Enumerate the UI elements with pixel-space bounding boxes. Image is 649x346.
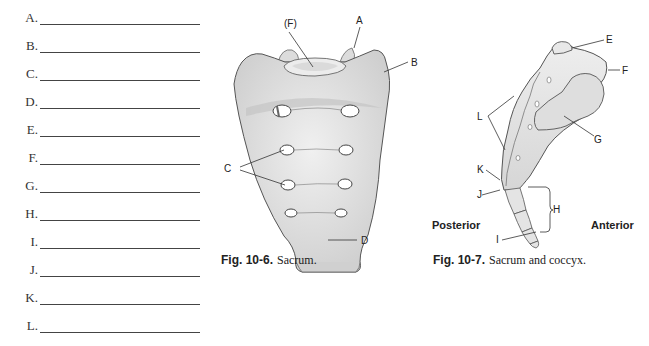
caption-text: Sacrum and coccyx.	[489, 253, 586, 267]
label-i: I	[496, 234, 499, 245]
figure-caption-10-7: Fig. 10-7.Sacrum and coccyx.	[433, 253, 586, 268]
label-d: D	[361, 235, 368, 246]
direction-posterior: Posterior	[432, 219, 480, 231]
sacral-foramen	[281, 180, 295, 190]
caption-number: Fig. 10-7.	[433, 253, 485, 267]
sacral-foramen	[285, 209, 297, 217]
sacral-foramen	[341, 105, 359, 117]
sacrum-illustration: (F) A B C D	[224, 15, 418, 272]
label-c: C	[224, 163, 231, 174]
label-k: K	[477, 164, 484, 175]
label-j: J	[477, 189, 482, 200]
caption-number: Fig. 10-6.	[221, 253, 273, 267]
sacral-foramen	[280, 145, 294, 155]
anatomy-figures: (F) A B C D E F G	[0, 0, 649, 346]
label-l: L	[477, 111, 483, 122]
label-h: H	[553, 204, 560, 215]
sacrum-coccyx-lateral-illustration: E F G L K J H I	[477, 34, 628, 248]
coccyx-segment	[505, 188, 526, 214]
label-f-paren: (F)	[284, 18, 297, 29]
sacral-foramen	[338, 179, 352, 189]
sacral-foramen	[335, 209, 347, 217]
label-g: G	[594, 134, 602, 145]
caption-text: Sacrum.	[277, 253, 317, 267]
direction-anterior: Anterior	[591, 219, 634, 231]
sacral-foramen	[273, 105, 291, 117]
label-e: E	[606, 34, 613, 45]
figure-caption-10-6: Fig. 10-6.Sacrum.	[221, 253, 317, 268]
label-a: A	[356, 15, 363, 26]
bracket-h	[528, 187, 553, 232]
label-f: F	[622, 65, 628, 76]
label-b: B	[411, 57, 418, 68]
sacral-foramen	[339, 145, 353, 155]
